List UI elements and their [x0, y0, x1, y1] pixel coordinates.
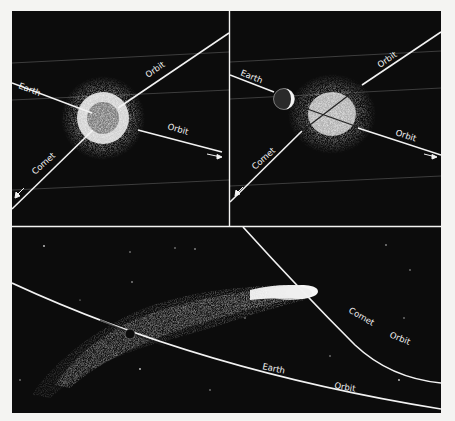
panel-top-right: Earth Orbit Comet Orbit [230, 11, 441, 226]
comet-earth-diagram: Earth Orbit Comet Orbit [0, 0, 455, 421]
comet-coma [61, 76, 145, 160]
panel-bottom: Comet Orbit Earth Orbit [12, 227, 441, 413]
panel-top-left: Earth Orbit Comet Orbit [12, 11, 229, 226]
comet-coma [288, 74, 376, 154]
earth-crescent-icon [274, 89, 295, 110]
earth-icon [125, 329, 135, 339]
